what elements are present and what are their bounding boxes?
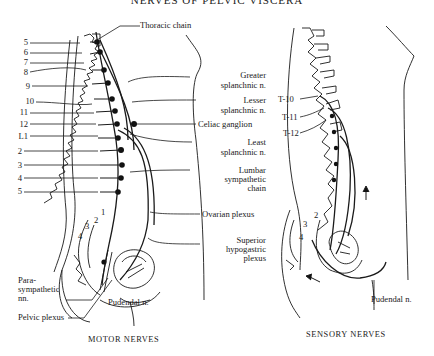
- label-ovarian-plexus: Ovarian plexus: [202, 210, 254, 219]
- vertebra-label-t12: 12: [12, 120, 28, 129]
- label-lumbar-chain-3: chain: [190, 184, 266, 193]
- vertebra-label-t5: 5: [12, 38, 28, 47]
- label-pelvic-plexus: Pelvic plexus: [18, 313, 64, 322]
- vertebra-label-t11-sensory: T-11: [282, 113, 298, 122]
- label-parasympathetic-3: nn.: [18, 294, 29, 303]
- label-lesser-splanchnic-1: Lesser: [190, 96, 266, 105]
- sensory-body-outline: [282, 26, 414, 318]
- vertebra-label-l2: 2: [6, 147, 22, 156]
- vertebra-label-t7: 7: [12, 58, 28, 67]
- motor-ganglia: [94, 39, 137, 264]
- caption-sensory-nerves: SENSORY NERVES: [306, 330, 386, 339]
- sacral-label-2-sensory: 2: [314, 211, 318, 220]
- sacral-label-4: 4: [78, 232, 82, 241]
- sacral-label-3-sensory: 3: [303, 220, 307, 229]
- label-lesser-splanchnic-2: splanchnic n.: [190, 106, 266, 115]
- label-superior-hypogastric-3: plexus: [190, 254, 266, 263]
- sacral-label-4-sensory: 4: [299, 233, 303, 242]
- vertebra-label-t6: 6: [12, 48, 28, 57]
- label-sensory-pudendal: Pudendal n.: [371, 295, 412, 304]
- caption-motor-nerves: MOTOR NERVES: [88, 335, 159, 344]
- label-thoracic-chain: Thoracic chain: [140, 21, 191, 30]
- label-celiac-ganglion: Celiac ganglion: [198, 120, 252, 129]
- label-motor-pudendal: Pudendal n.: [108, 298, 149, 307]
- sensory-arrows: [306, 186, 369, 282]
- vertebra-label-t12-sensory: T-12: [283, 129, 299, 138]
- vertebra-label-l1: L1: [12, 132, 28, 141]
- label-least-splanchnic-2: splanchnic n.: [190, 148, 266, 157]
- vertebra-label-l4: 4: [6, 174, 22, 183]
- label-least-splanchnic-1: Least: [190, 138, 266, 147]
- vertebra-label-t9: 9: [14, 82, 30, 91]
- vertebra-label-t8: 8: [12, 68, 28, 77]
- motor-body-outline: [62, 35, 204, 322]
- sacral-label-3: 3: [85, 222, 89, 231]
- vertebra-label-t10-sensory: T-10: [278, 95, 294, 104]
- vertebra-label-t11: 11: [12, 108, 28, 117]
- label-greater-splanchnic-1: Greater: [190, 71, 266, 80]
- vertebra-label-l5: 5: [6, 187, 22, 196]
- sacral-label-2: 2: [94, 216, 98, 225]
- label-greater-splanchnic-2: splanchnic n.: [190, 81, 266, 90]
- motor-spine: [44, 34, 100, 318]
- vertebra-label-t10: 10: [18, 97, 34, 106]
- sacral-label-1: 1: [101, 208, 105, 217]
- vertebra-label-l3: 3: [6, 161, 22, 170]
